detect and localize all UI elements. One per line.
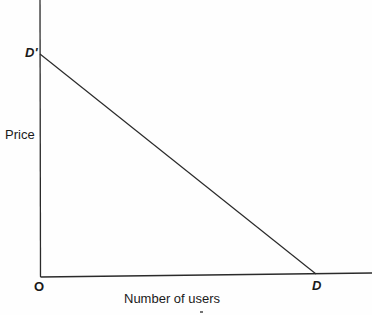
y-axis [40,0,41,277]
x-axis [41,273,372,277]
d-prime-label: D' [25,45,37,60]
x-axis-label: Number of users [124,291,220,306]
demand-curve [40,54,316,274]
demand-diagram: D' Price O D Number of users [0,0,372,315]
d-label: D [312,278,321,293]
y-axis-label: Price [5,127,35,142]
origin-label: O [34,279,44,294]
diagram-lines [0,0,372,315]
